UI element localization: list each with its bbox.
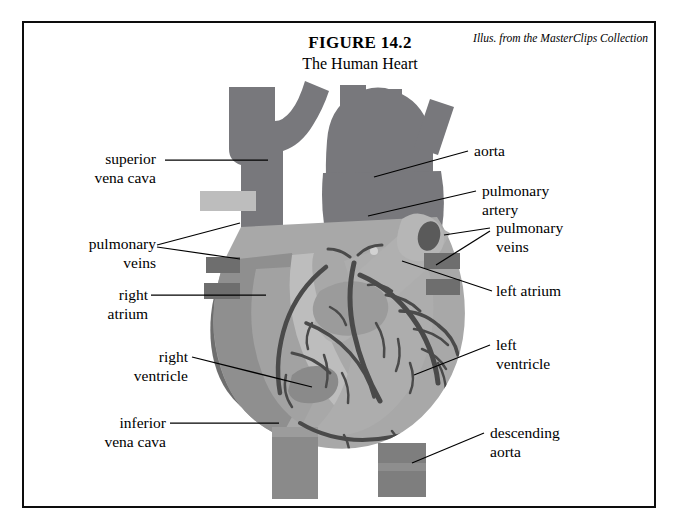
figure-page: FIGURE 14.2 The Human Heart Illus. from … — [0, 0, 679, 530]
leader-pulmonary-veins-right-upper — [444, 228, 490, 235]
leader-pulmonary-veins-right-lower — [436, 231, 490, 265]
leader-pulmonary-veins-left-lower — [157, 247, 240, 259]
leader-right-ventricle — [192, 357, 312, 387]
label-aorta: aorta — [474, 141, 505, 160]
figure-frame: FIGURE 14.2 The Human Heart Illus. from … — [22, 21, 656, 508]
label-superior-vena-cava: superior vena cava — [46, 149, 156, 187]
label-pulmonary-artery: pulmonary artery — [482, 181, 549, 219]
leader-left-atrium — [402, 261, 492, 291]
label-pulmonary-veins-right: pulmonary veins — [496, 218, 563, 256]
label-right-atrium: right atrium — [46, 285, 148, 323]
leader-aorta — [374, 151, 468, 177]
label-right-ventricle: right ventricle — [78, 347, 188, 385]
leader-pulmonary-artery — [368, 191, 476, 216]
leader-pulmonary-veins-left-upper — [157, 223, 240, 245]
label-left-ventricle: left ventricle — [496, 335, 550, 373]
label-inferior-vena-cava: inferior vena cava — [56, 413, 166, 451]
label-descending-aorta: descending aorta — [490, 423, 560, 461]
leader-left-ventricle — [414, 345, 490, 375]
label-left-atrium: left atrium — [496, 281, 561, 300]
label-pulmonary-veins-left: pulmonary veins — [32, 234, 156, 272]
leader-descending-aorta — [412, 433, 484, 463]
